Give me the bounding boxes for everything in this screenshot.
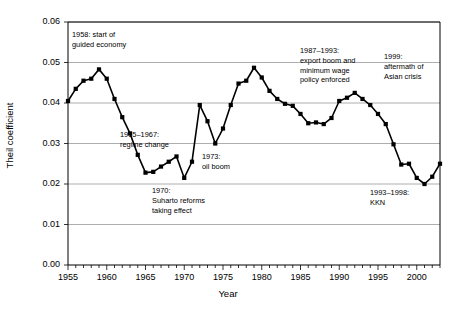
x-tick-label: 1975	[203, 272, 243, 282]
data-series-markers	[66, 66, 442, 186]
y-tick-label: 0.01	[30, 219, 60, 229]
x-axis-label: Year	[0, 288, 456, 299]
y-tick-label: 0.00	[30, 259, 60, 269]
y-tick-label: 0.05	[30, 57, 60, 67]
annotation-regime_change: 1965–1967: regime change	[120, 130, 169, 150]
x-tick-label: 2000	[397, 272, 437, 282]
x-tick-label: 1965	[126, 272, 166, 282]
x-tick-label: 1990	[319, 272, 359, 282]
annotation-kkn: 1993–1998: KKN	[370, 188, 409, 208]
y-tick-label: 0.02	[30, 178, 60, 188]
chart-figure: Theil coefficient Year 0.000.010.020.030…	[0, 0, 456, 310]
annotation-guided_economy: 1958: start of guided economy	[72, 30, 126, 50]
y-axis-label-container: Theil coefficient	[2, 0, 18, 270]
y-axis-ticks	[64, 22, 68, 265]
x-tick-label: 1980	[242, 272, 282, 282]
y-tick-label: 0.04	[30, 97, 60, 107]
x-tick-label: 1985	[281, 272, 321, 282]
x-tick-label: 1955	[48, 272, 88, 282]
annotation-export_boom: 1987–1993: export boom and minimum wage …	[300, 46, 355, 85]
annotation-suharto_reforms: 1970: Suharto reforms taking effect	[152, 186, 205, 215]
y-axis-label: Theil coefficient	[5, 102, 16, 168]
x-tick-label: 1995	[358, 272, 398, 282]
y-tick-label: 0.03	[30, 138, 60, 148]
y-tick-label: 0.06	[30, 16, 60, 26]
annotation-oil_boom: 1973: oil boom	[202, 152, 230, 172]
x-axis-ticks	[68, 265, 440, 270]
x-tick-label: 1960	[87, 272, 127, 282]
annotation-asian_crisis: 1999: aftermath of Asian crisis	[384, 52, 423, 81]
x-tick-label: 1970	[164, 272, 204, 282]
